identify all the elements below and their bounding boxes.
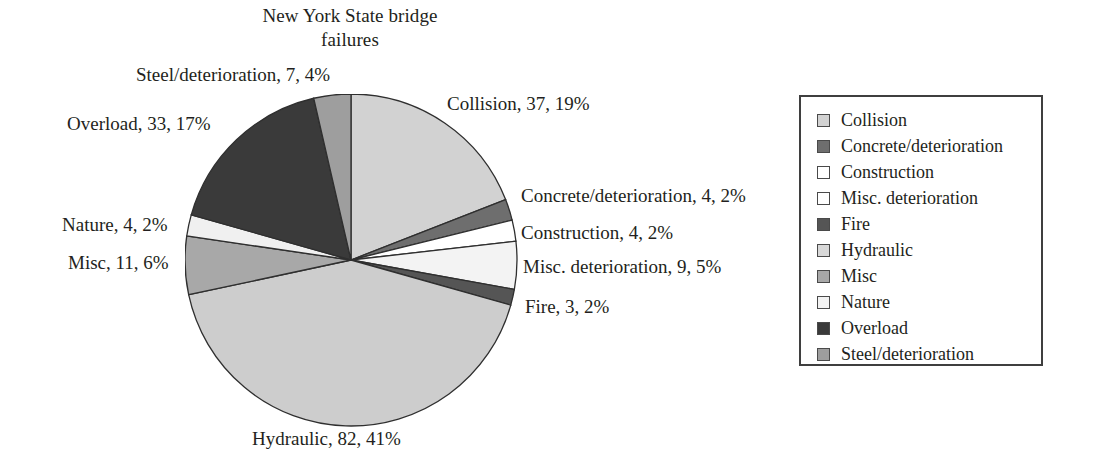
legend-list: CollisionConcrete/deteriorationConstruct… (817, 107, 1031, 367)
pie-data-label: Fire, 3, 2% (525, 296, 609, 318)
legend-item-label: Collision (841, 110, 907, 130)
legend-item-label: Fire (841, 214, 870, 234)
pie-svg (185, 94, 519, 428)
pie-data-label: Nature, 4, 2% (62, 214, 168, 236)
legend-swatch-icon (817, 114, 830, 127)
legend-swatch-icon (817, 270, 830, 283)
legend-swatch-icon (817, 322, 830, 335)
legend-item: Fire (817, 211, 1031, 237)
legend-item: Nature (817, 289, 1031, 315)
pie-data-label: Hydraulic, 82, 41% (252, 428, 401, 450)
legend-item-label: Hydraulic (841, 240, 913, 260)
pie-data-label: Overload, 33, 17% (67, 113, 211, 135)
pie-data-label: Construction, 4, 2% (521, 222, 673, 244)
legend-item: Hydraulic (817, 237, 1031, 263)
legend-swatch-icon (817, 244, 830, 257)
pie-chart-figure: New York State bridge failures Steel/det… (0, 0, 1107, 463)
legend-item-label: Misc (841, 266, 877, 286)
legend-item: Misc. deterioration (817, 185, 1031, 211)
pie-data-label: Concrete/deterioration, 4, 2% (521, 185, 746, 207)
legend-item: Steel/deterioration (817, 341, 1031, 367)
legend-swatch-icon (817, 192, 830, 205)
legend-item: Misc (817, 263, 1031, 289)
pie-data-label: Misc, 11, 6% (68, 252, 169, 274)
legend-swatch-icon (817, 140, 830, 153)
pie-data-label: Misc. deterioration, 9, 5% (523, 256, 721, 278)
legend-item-label: Nature (841, 292, 890, 312)
legend-item: Overload (817, 315, 1031, 341)
pie-data-label: Steel/deterioration, 7, 4% (136, 64, 330, 86)
legend-item-label: Misc. deterioration (841, 188, 978, 208)
legend-item-label: Steel/deterioration (841, 344, 974, 364)
legend-item-label: Overload (841, 318, 908, 338)
legend-item: Collision (817, 107, 1031, 133)
legend-item-label: Concrete/deterioration (841, 136, 1003, 156)
legend-swatch-icon (817, 166, 830, 179)
legend-swatch-icon (817, 296, 830, 309)
legend-item-label: Construction (841, 162, 934, 182)
legend-swatch-icon (817, 218, 830, 231)
legend-swatch-icon (817, 348, 830, 361)
legend-box: CollisionConcrete/deteriorationConstruct… (799, 95, 1043, 366)
legend-item: Concrete/deterioration (817, 133, 1031, 159)
pie-data-label: Collision, 37, 19% (447, 93, 590, 115)
legend-item: Construction (817, 159, 1031, 185)
